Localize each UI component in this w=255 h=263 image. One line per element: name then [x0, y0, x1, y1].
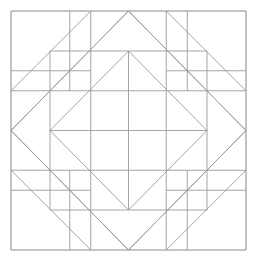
line-hst-diag-left-top — [11, 71, 70, 131]
line-hst-diag-bot-left — [70, 190, 129, 250]
line-hst-diag-top-right — [129, 11, 188, 71]
line-hst-diag-right-top — [187, 71, 246, 131]
line-hst-diag-left-bot — [11, 131, 70, 191]
line-hst-diag-bot-right — [129, 190, 188, 250]
pattern-line-group — [11, 11, 246, 250]
quilt-block-drawing: Quilt Block Line Drawing — [0, 0, 255, 263]
line-hst-diag-right-bot — [187, 131, 246, 191]
quilt-block-figure: Quilt Block Line Drawing — [0, 0, 255, 263]
line-hst-diag-top-left — [70, 11, 129, 71]
